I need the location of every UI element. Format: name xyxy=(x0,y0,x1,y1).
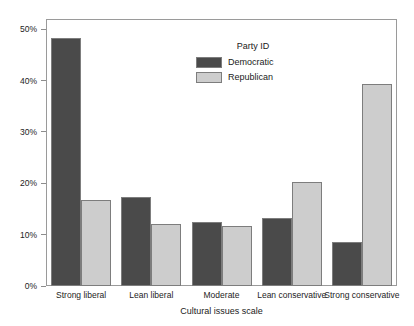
x-axis-tick-label: Strong conservative xyxy=(324,289,399,302)
legend-title: Party ID xyxy=(196,41,300,51)
bar xyxy=(362,84,392,286)
legend-entry: Democratic xyxy=(196,55,300,69)
bar xyxy=(222,226,252,286)
bar xyxy=(192,222,222,286)
legend-label: Democratic xyxy=(228,57,274,67)
legend-entry: Republican xyxy=(196,70,300,84)
bar xyxy=(151,224,181,286)
legend-swatch xyxy=(196,57,222,68)
x-axis-tick-label: Lean conservative xyxy=(257,289,326,302)
bar xyxy=(332,242,362,286)
x-axis-tick-label: Strong liberal xyxy=(56,289,106,302)
legend-label: Republican xyxy=(228,72,273,82)
bar xyxy=(292,182,322,286)
bar xyxy=(121,197,151,286)
bar-chart: 0%10%20%30%40%50% Strong liberalLean lib… xyxy=(0,0,414,326)
legend: Party ID DemocraticRepublican xyxy=(196,41,300,85)
x-axis-tick-label: Lean liberal xyxy=(129,289,173,302)
x-axis: Strong liberalLean liberalModerateLean c… xyxy=(46,289,397,305)
bar xyxy=(262,218,292,286)
bar xyxy=(51,38,81,286)
legend-entries: DemocraticRepublican xyxy=(196,55,300,84)
x-axis-title: Cultural issues scale xyxy=(46,306,397,316)
x-axis-tick-label: Moderate xyxy=(204,289,240,302)
legend-swatch xyxy=(196,72,222,83)
bar xyxy=(81,200,111,286)
